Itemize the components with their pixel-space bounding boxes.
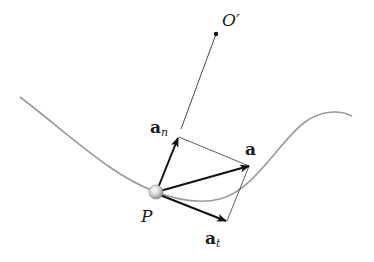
construction-line-at-to-a <box>227 166 249 221</box>
vector-a-n <box>158 138 178 188</box>
label-a-n: an <box>150 117 168 139</box>
vector-a <box>160 166 249 191</box>
vector-a-t <box>160 195 226 221</box>
construction-line-an-to-a <box>179 137 249 166</box>
path-curve <box>20 97 352 201</box>
label-p: P <box>140 206 153 226</box>
particle-p <box>149 185 163 199</box>
label-a-t: at <box>205 228 221 250</box>
center-of-curvature-point <box>214 32 218 36</box>
radius-of-curvature-line <box>181 34 216 129</box>
acceleration-diagram: O′ an a P at <box>0 0 374 262</box>
label-a: a <box>245 139 256 159</box>
label-o-prime: O′ <box>222 10 240 30</box>
